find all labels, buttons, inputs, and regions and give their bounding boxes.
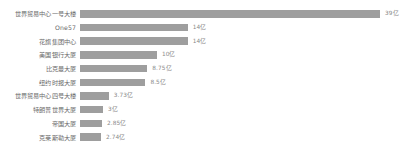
- value-label: 8.5亿: [145, 79, 166, 86]
- bar-row: One5714亿: [0, 21, 414, 35]
- bar-track: 2.74亿: [80, 130, 414, 144]
- bar[interactable]: [80, 133, 101, 141]
- bar-rows-container: 世界贸易中心一号大楼39亿One5714亿花旗集团中心14亿美国银行大厦10亿比…: [0, 7, 414, 144]
- bar[interactable]: [80, 24, 188, 32]
- bar-row: 纽约时报大厦8.5亿: [0, 75, 414, 89]
- value-label: 10亿: [157, 51, 176, 58]
- bar-track: 39亿: [80, 7, 414, 21]
- value-label: 2.74亿: [101, 134, 125, 141]
- bar-track: 14亿: [80, 34, 414, 48]
- bar-row: 世界贸易中心一号大楼39亿: [0, 7, 414, 21]
- bar-track: 8.75亿: [80, 62, 414, 76]
- category-label: 世界贸易中心四号大楼: [0, 92, 80, 99]
- value-label: 14亿: [188, 24, 207, 31]
- bar-row: 特朗普世界大厦3亿: [0, 103, 414, 117]
- bar-row: 克莱斯勒大厦2.74亿: [0, 130, 414, 144]
- value-label: 3亿: [103, 106, 118, 113]
- value-label: 39亿: [380, 10, 399, 17]
- value-label: 3.73亿: [109, 92, 133, 99]
- bar-track: 2.85亿: [80, 117, 414, 131]
- bar-track: 3.73亿: [80, 89, 414, 103]
- bar[interactable]: [80, 65, 147, 73]
- bar[interactable]: [80, 37, 188, 45]
- category-label: 比克曼大厦: [0, 65, 80, 72]
- bar[interactable]: [80, 51, 157, 59]
- bar-track: 3亿: [80, 103, 414, 117]
- bar[interactable]: [80, 79, 145, 87]
- horizontal-bar-chart: 世界贸易中心一号大楼39亿One5714亿花旗集团中心14亿美国银行大厦10亿比…: [0, 0, 414, 150]
- category-label: 美国银行大厦: [0, 51, 80, 58]
- bar[interactable]: [80, 120, 102, 128]
- bar-row: 世界贸易中心四号大楼3.73亿: [0, 89, 414, 103]
- bar-track: 14亿: [80, 21, 414, 35]
- category-label: One57: [0, 24, 80, 31]
- bar-track: 10亿: [80, 48, 414, 62]
- category-label: 特朗普世界大厦: [0, 106, 80, 113]
- bar-row: 花旗集团中心14亿: [0, 34, 414, 48]
- value-label: 2.85亿: [102, 120, 126, 127]
- bar[interactable]: [80, 92, 109, 100]
- bar[interactable]: [80, 106, 103, 114]
- bar-row: 比克曼大厦8.75亿: [0, 62, 414, 76]
- bar-track: 8.5亿: [80, 75, 414, 89]
- bar-row: 美国银行大厦10亿: [0, 48, 414, 62]
- bar-row: 帝国大厦2.85亿: [0, 117, 414, 131]
- category-label: 克莱斯勒大厦: [0, 134, 80, 141]
- category-label: 世界贸易中心一号大楼: [0, 10, 80, 17]
- category-label: 帝国大厦: [0, 120, 80, 127]
- value-label: 8.75亿: [147, 65, 171, 72]
- value-label: 14亿: [188, 38, 207, 45]
- category-label: 花旗集团中心: [0, 38, 80, 45]
- bar[interactable]: [80, 10, 380, 18]
- category-label: 纽约时报大厦: [0, 79, 80, 86]
